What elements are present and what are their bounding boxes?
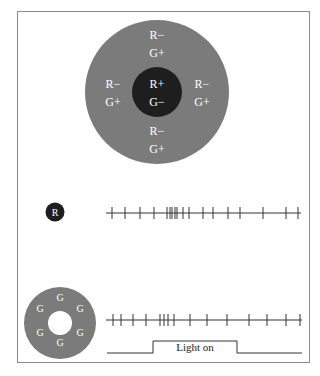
center-label-r-plus: R+ xyxy=(150,77,165,91)
light-on-label: Light on xyxy=(176,341,214,353)
annulus-label-upper-right: G xyxy=(76,303,83,314)
light-indicator: Light on xyxy=(107,341,302,353)
red-spot-label: R xyxy=(52,207,59,218)
annulus-label-top: G xyxy=(56,292,63,303)
receptive-field: R+ G− R− G+ R− G+ R− G+ R− G+ xyxy=(85,20,229,164)
center-circle xyxy=(132,67,182,117)
surround-right-g: G+ xyxy=(194,95,210,109)
surround-top-g: G+ xyxy=(149,46,165,60)
green-stimulus-row: G G G G G G xyxy=(24,287,302,359)
annulus-label-bottom: G xyxy=(56,337,63,348)
surround-right-r: R− xyxy=(195,77,210,91)
figure: R+ G− R− G+ R− G+ R− G+ R− G+ R G G G G … xyxy=(0,0,320,376)
surround-left-g: G+ xyxy=(105,95,121,109)
surround-top-r: R− xyxy=(150,28,165,42)
surround-bottom-r: R− xyxy=(150,124,165,138)
annulus-label-lower-right: G xyxy=(76,327,83,338)
surround-bottom-g: G+ xyxy=(149,142,165,156)
surround-left-r: R− xyxy=(106,77,121,91)
annulus-hole xyxy=(48,311,72,335)
center-label-g-minus: G− xyxy=(149,95,165,109)
annulus-label-upper-left: G xyxy=(36,303,43,314)
red-stimulus-row: R xyxy=(46,203,302,222)
annulus-label-lower-left: G xyxy=(36,327,43,338)
